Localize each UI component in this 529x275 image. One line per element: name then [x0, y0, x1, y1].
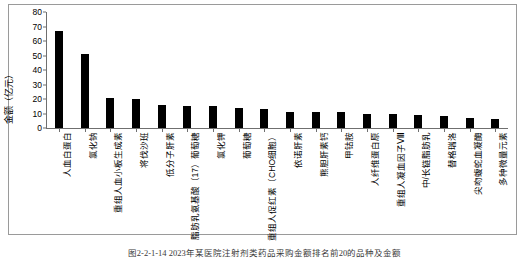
x-tick-label: 氯化钠 [89, 132, 98, 159]
bar [363, 114, 371, 129]
y-tick-mark [43, 84, 46, 85]
y-tick-mark [43, 128, 46, 129]
x-tick-label: 脂肪乳氨基酸（17）葡萄糖 [191, 132, 200, 240]
y-tick-mark [43, 26, 46, 27]
bar [337, 112, 345, 128]
x-tick-label: 依诺肝素 [294, 132, 303, 168]
y-axis-label: 金额（亿元） [2, 62, 15, 132]
plot-area: 01020304050607080 [46, 12, 508, 128]
y-tick-mark [43, 55, 46, 56]
y-tick-mark [43, 113, 46, 114]
bar [312, 112, 320, 128]
figure-caption: 图2-2-1-14 2023年某医院注射剂类药品采购金额排名前20的品种及金额 [0, 246, 529, 258]
y-tick-mark [43, 12, 46, 13]
x-tick-label: 中/长链脂肪乳 [422, 132, 431, 188]
x-tick-label: 尖吻蝮蛇血凝酶 [474, 132, 483, 195]
x-tick-label: 人血白蛋白 [63, 132, 72, 177]
bar [158, 105, 166, 128]
x-tick-label: 重组人促红素（CHO细胞） [268, 132, 277, 241]
x-tick-label: 低分子肝素 [166, 132, 175, 177]
x-axis-labels: 人血白蛋白氯化钠重组人血小板生成素将伐沙班低分子肝素脂肪乳氨基酸（17）葡萄糖氯… [46, 132, 508, 232]
x-tick-label: 重组人血小板生成素 [114, 132, 123, 213]
bar [491, 119, 499, 128]
x-tick-label: 重组人凝血因子Ⅷ [397, 132, 406, 207]
bar [81, 54, 89, 128]
bar [389, 114, 397, 129]
y-tick-mark [43, 41, 46, 42]
bar [260, 109, 268, 128]
x-axis-line [46, 128, 508, 129]
x-tick-label: 葡萄糖 [243, 132, 252, 159]
bar [235, 108, 243, 128]
bar [106, 98, 114, 128]
bar-series [46, 12, 508, 128]
x-tick-label: 多种微量元素 [499, 132, 508, 186]
bar [55, 31, 63, 128]
bar [466, 118, 474, 128]
x-tick-label: 替格瑞洛 [448, 132, 457, 168]
bar [183, 106, 191, 128]
bar [286, 112, 294, 128]
x-tick-label: 将伐沙班 [140, 132, 149, 168]
chart-page: 金额（亿元） 01020304050607080 人血白蛋白氯化钠重组人血小板生… [0, 0, 529, 275]
x-tick-label: 甲钴胺 [345, 132, 354, 159]
y-tick-mark [43, 99, 46, 100]
bar [440, 116, 448, 128]
x-tick-label: 氯化钾 [217, 132, 226, 159]
x-tick-label: 人纤维蛋白原 [371, 132, 380, 186]
bar-chart: 金额（亿元） 01020304050607080 人血白蛋白氯化钠重组人血小板生… [8, 4, 518, 236]
bar [414, 115, 422, 128]
y-tick-mark [43, 70, 46, 71]
bar [209, 106, 217, 128]
x-tick-label: 熊胆肝素钙 [320, 132, 329, 177]
bar [132, 99, 140, 128]
